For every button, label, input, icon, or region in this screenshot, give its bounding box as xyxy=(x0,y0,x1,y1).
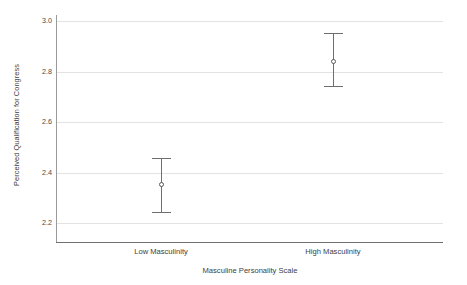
x-axis-tick-label-high-masculinity: High Masculinity xyxy=(263,247,403,256)
x-axis-line xyxy=(56,242,443,243)
x-axis-title: Masculine Personality Scale xyxy=(57,266,443,275)
y-axis-tick-label: 2.2 xyxy=(6,219,52,227)
y-axis-tick-label: 2.8 xyxy=(6,68,52,76)
datapoint-marker[interactable] xyxy=(159,182,164,187)
y-axis-tick-label-group: 3.0 2.8 2.6 2.4 2.2 xyxy=(4,0,52,285)
gridline-2-2 xyxy=(57,223,443,224)
gridline-2-8 xyxy=(57,72,443,73)
y-axis-tick-label: 2.4 xyxy=(6,169,52,177)
gridline-3-0 xyxy=(57,21,443,22)
plot-area xyxy=(57,15,443,242)
datapoint-marker[interactable] xyxy=(331,59,336,64)
errorbar-cap-lower xyxy=(152,212,171,213)
y-axis-tick-label: 2.6 xyxy=(6,118,52,126)
errorbar-chart-figure: Perceived Qualification for Congress 3.0… xyxy=(0,0,467,285)
x-axis-tick-label-low-masculinity: Low Masculinity xyxy=(91,247,231,256)
gridline-2-4 xyxy=(57,173,443,174)
gridline-2-6 xyxy=(57,122,443,123)
errorbar-cap-lower xyxy=(324,86,343,87)
y-axis-tick-label: 3.0 xyxy=(6,17,52,25)
